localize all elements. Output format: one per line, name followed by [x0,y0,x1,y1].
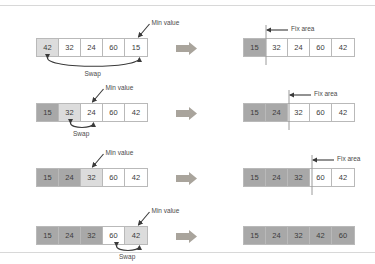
swap-label: Swap [119,253,135,260]
min-value-label: Min value [152,207,180,214]
transition-arrow-icon [176,229,198,242]
sort-step-row: 15243260421524326042Min valueFix area [0,142,375,207]
fix-area-label: Fix area [314,90,337,97]
transition-arrow-icon [176,106,198,119]
min-value-arrow [93,89,104,102]
min-value-arrow [139,24,150,37]
sort-step-row: 15243260421524324260Min valueSwap [0,200,375,264]
fix-area-label: Fix area [337,155,360,162]
swap-arrow [117,246,140,251]
swap-arrow [71,123,94,128]
min-value-label: Min value [106,149,134,156]
swap-label: Swap [85,70,101,77]
min-value-label: Min value [106,84,134,91]
swap-label: Swap [73,130,89,137]
min-value-arrow [93,154,104,167]
sort-step-row: 15322460421524326042Min valueSwapFix are… [0,77,375,142]
sort-step-row: 42322460151532246042Min valueSwapFix are… [0,12,375,77]
min-value-arrow [139,212,150,225]
transition-arrow-icon [176,41,198,54]
swap-arrow [48,58,140,66]
min-value-label: Min value [152,19,180,26]
selection-sort-figure: 42322460151532246042Min valueSwapFix are… [0,0,375,264]
top-divider-rule [0,5,375,6]
fix-area-label: Fix area [291,25,314,32]
transition-arrow-icon [176,171,198,184]
